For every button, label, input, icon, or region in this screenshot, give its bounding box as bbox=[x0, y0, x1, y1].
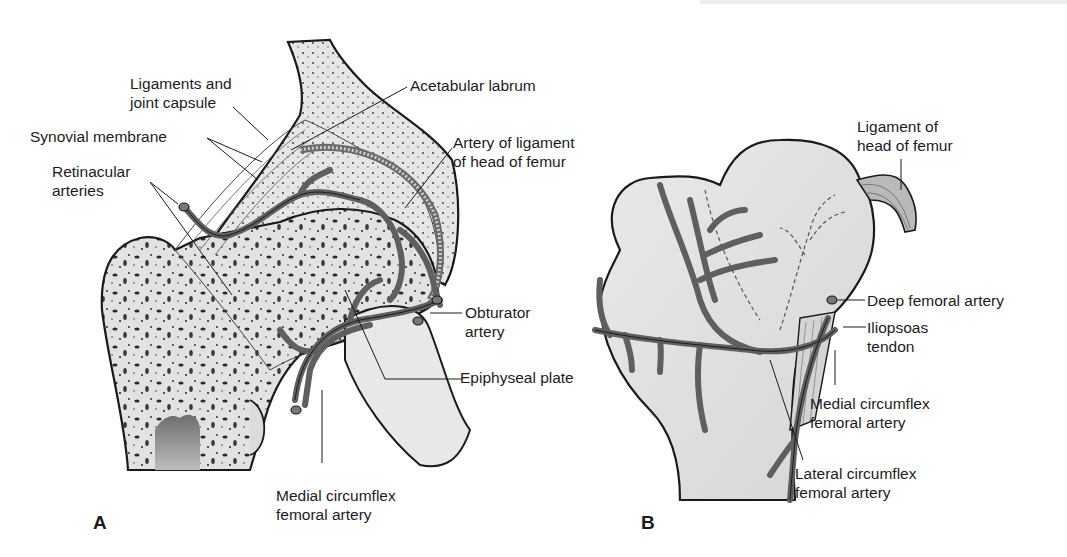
label-ligaments-joint-capsule: Ligaments and joint capsule bbox=[130, 74, 232, 112]
label-epiphyseal-plate: Epiphyseal plate bbox=[460, 368, 574, 387]
label-synovial-membrane: Synovial membrane bbox=[30, 127, 167, 146]
label-ligament-head-femur: Ligament of head of femur bbox=[857, 117, 953, 155]
label-deep-femoral-artery: Deep femoral artery bbox=[867, 291, 1004, 310]
panel-letter-a: A bbox=[93, 512, 107, 534]
label-artery-ligament-head-femur: Artery of ligament of head of femur bbox=[453, 133, 574, 171]
label-acetabular-labrum: Acetabular labrum bbox=[410, 76, 536, 95]
label-lateral-circumflex: Lateral circumflex femoral artery bbox=[795, 464, 916, 502]
label-obturator-artery: Obturator artery bbox=[465, 303, 530, 341]
label-medial-circumflex-b: Medial circumflex femoral artery bbox=[810, 394, 930, 432]
label-iliopsoas-tendon: Iliopsoas tendon bbox=[867, 318, 928, 356]
panel-letter-b: B bbox=[641, 512, 655, 534]
label-medial-circumflex-a: Medial circumflex femoral artery bbox=[276, 486, 396, 524]
label-retinacular-arteries: Retinacular arteries bbox=[52, 162, 130, 200]
